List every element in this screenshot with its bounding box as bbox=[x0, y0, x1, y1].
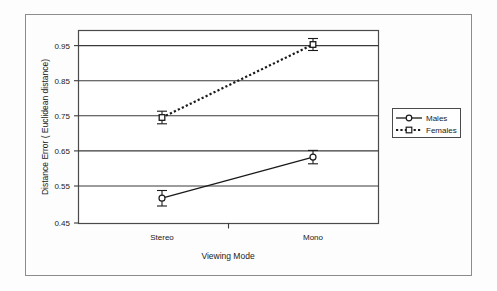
y-tick-label-1: 0.55 bbox=[54, 182, 70, 191]
x-category-label-1: Mono bbox=[303, 233, 324, 242]
y-tick-label-5: 0.95 bbox=[54, 42, 70, 51]
x-category-label-0: Stereo bbox=[150, 233, 174, 242]
figure-container: 0.95 0.85 0.75 0.65 0.55 0.45 Distance E… bbox=[0, 0, 497, 291]
datapoint-females-mono bbox=[310, 42, 316, 48]
y-tick-label-4: 0.85 bbox=[54, 77, 70, 86]
y-axis-ticks bbox=[74, 46, 79, 223]
plot-frame bbox=[79, 31, 379, 224]
y-axis-title: Distance Error ( Euclidean distance) bbox=[40, 59, 50, 195]
legend-label-females: Females bbox=[426, 126, 457, 135]
x-axis-title: Viewing Mode bbox=[201, 251, 255, 261]
y-tick-label-3: 0.75 bbox=[54, 112, 70, 121]
legend-marker-females bbox=[406, 127, 412, 133]
legend-marker-males bbox=[406, 115, 412, 121]
line-chart: 0.95 0.85 0.75 0.65 0.55 0.45 Distance E… bbox=[0, 0, 497, 291]
y-axis-tick-labels: 0.95 0.85 0.75 0.65 0.55 0.45 bbox=[54, 42, 70, 228]
legend-label-males: Males bbox=[426, 114, 447, 123]
datapoint-females-stereo bbox=[159, 115, 165, 121]
y-tick-label-2: 0.65 bbox=[54, 147, 70, 156]
datapoint-males-mono bbox=[310, 154, 316, 160]
y-tick-label-0: 0.45 bbox=[54, 219, 70, 228]
legend: Males Females bbox=[393, 109, 461, 138]
datapoint-males-stereo bbox=[159, 195, 165, 201]
